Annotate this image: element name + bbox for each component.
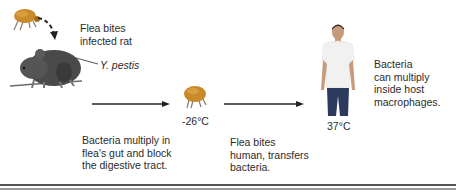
label-line: macrophages. xyxy=(374,96,441,109)
label-line: bacteria. xyxy=(230,161,309,174)
dashed-arrow xyxy=(36,14,62,42)
bottom-rule xyxy=(0,184,456,186)
label-line: Bacteria xyxy=(374,58,441,71)
flea-bites-rat-label: Flea bites infected rat xyxy=(80,22,132,47)
pointer-line xyxy=(76,56,100,66)
label-line: infected rat xyxy=(80,35,132,48)
human-temperature: 37°C xyxy=(327,120,350,133)
flea-bites-human-label: Flea bites human, transfers bacteria. xyxy=(230,136,309,174)
arrow-2 xyxy=(224,100,304,108)
bottom-rule xyxy=(0,188,456,190)
human-image xyxy=(318,24,358,116)
label-line: the digestive tract. xyxy=(82,159,172,172)
macrophages-label: Bacteria can multiply inside host macrop… xyxy=(374,58,441,108)
flea-gut-label: Bacteria multiply in flea's gut and bloc… xyxy=(82,134,172,172)
y-pestis-label: Y. pestis xyxy=(100,59,139,72)
label-line: inside host xyxy=(374,83,441,96)
label-line: Flea bites xyxy=(230,136,309,149)
label-line: Flea bites xyxy=(80,22,132,35)
label-line: flea's gut and block xyxy=(82,147,172,160)
flea-icon xyxy=(180,84,210,110)
flea-temperature: -26°C xyxy=(182,115,209,128)
label-line: Bacteria multiply in xyxy=(82,134,172,147)
label-line: can multiply xyxy=(374,71,441,84)
label-line: human, transfers xyxy=(230,149,309,162)
rat-image xyxy=(4,46,86,94)
arrow-1 xyxy=(92,100,172,108)
